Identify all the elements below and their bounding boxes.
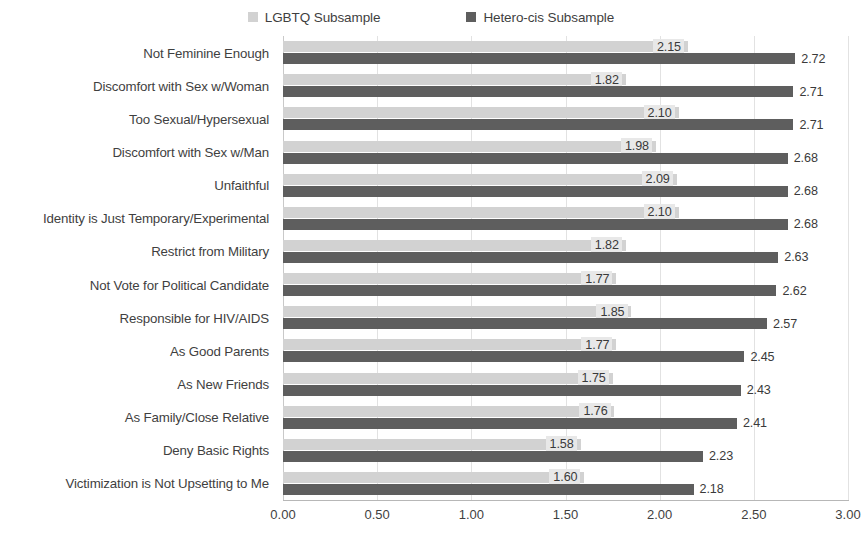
legend-item-label: Hetero-cis Subsample [483,10,614,25]
bar-value-hetero-cis-subsample: 2.68 [794,217,818,231]
category-label: Responsible for HIV/AIDS [120,310,269,325]
bar-value-hetero-cis-subsample: 2.18 [700,482,724,496]
bar-lgbtq-subsample[interactable] [283,174,677,185]
category-label: Discomfort with Sex w/Woman [93,78,269,93]
bar-hetero-cis-subsample[interactable] [283,119,793,130]
category-label: Victimization is Not Upsetting to Me [66,476,270,491]
bar-hetero-cis-subsample[interactable] [283,484,694,495]
bar-value-hetero-cis-subsample: 2.41 [743,416,767,430]
bar-value-hetero-cis-subsample: 2.72 [801,52,825,66]
x-tick-label: 1.50 [553,507,578,522]
category-axis-labels: Not Feminine EnoughDiscomfort with Sex w… [0,36,277,500]
bar-lgbtq-subsample[interactable] [283,41,688,52]
bar-value-hetero-cis-subsample: 2.23 [709,449,733,463]
bar-hetero-cis-subsample[interactable] [283,252,778,263]
bar-lgbtq-subsample[interactable] [283,141,656,152]
gridline [566,36,567,500]
category-label: As Good Parents [170,343,269,358]
legend-item[interactable]: LGBTQ Subsample [248,10,381,25]
bar-lgbtq-subsample[interactable] [283,240,626,251]
square-marker-icon [248,12,258,22]
gridline [283,36,284,500]
bar-value-hetero-cis-subsample: 2.71 [799,118,823,132]
category-label: Discomfort with Sex w/Man [112,145,269,160]
category-label: Restrict from Military [151,244,269,259]
category-label: As Family/Close Relative [125,410,269,425]
category-label: Not Vote for Political Candidate [90,277,269,292]
bar-value-hetero-cis-subsample: 2.68 [794,151,818,165]
category-label: As New Friends [177,377,269,392]
x-tick-label: 1.00 [459,507,484,522]
plot-area: 2.152.721.822.712.102.711.982.682.092.68… [283,36,848,500]
bar-chart: Not Feminine EnoughDiscomfort with Sex w… [0,36,862,554]
bar-hetero-cis-subsample[interactable] [283,53,795,64]
x-tick-label: 2.00 [647,507,672,522]
bar-value-hetero-cis-subsample: 2.68 [794,184,818,198]
chart-legend: LGBTQ SubsampleHetero-cis Subsample [0,6,862,28]
bar-lgbtq-subsample[interactable] [283,472,584,483]
legend-item-label: LGBTQ Subsample [265,10,381,25]
bar-hetero-cis-subsample[interactable] [283,186,788,197]
bar-lgbtq-subsample[interactable] [283,107,679,118]
bar-lgbtq-subsample[interactable] [283,306,631,317]
gridline [754,36,755,500]
bar-hetero-cis-subsample[interactable] [283,86,793,97]
category-label: Not Feminine Enough [143,45,269,60]
square-marker-icon [466,12,476,22]
legend-item[interactable]: Hetero-cis Subsample [466,10,614,25]
bar-hetero-cis-subsample[interactable] [283,318,767,329]
bar-lgbtq-subsample[interactable] [283,74,626,85]
x-axis-line [283,500,849,501]
category-label: Identity is Just Temporary/Experimental [43,211,269,226]
category-label: Too Sexual/Hypersexual [129,111,269,126]
x-tick-label: 0.50 [365,507,390,522]
bar-hetero-cis-subsample[interactable] [283,351,744,362]
bar-hetero-cis-subsample[interactable] [283,451,703,462]
bar-hetero-cis-subsample[interactable] [283,285,776,296]
bar-lgbtq-subsample[interactable] [283,406,614,417]
bar-lgbtq-subsample[interactable] [283,439,581,450]
bar-value-hetero-cis-subsample: 2.63 [784,250,808,264]
bar-lgbtq-subsample[interactable] [283,373,613,384]
bar-hetero-cis-subsample[interactable] [283,153,788,164]
bar-lgbtq-subsample[interactable] [283,339,616,350]
bar-value-hetero-cis-subsample: 2.57 [773,317,797,331]
bar-lgbtq-subsample[interactable] [283,207,679,218]
gridline [848,36,849,500]
bar-value-hetero-cis-subsample: 2.62 [782,284,806,298]
bar-value-hetero-cis-subsample: 2.45 [750,350,774,364]
bar-lgbtq-subsample[interactable] [283,273,616,284]
category-label: Deny Basic Rights [163,443,269,458]
gridline [471,36,472,500]
x-tick-label: 0.00 [270,507,295,522]
bar-hetero-cis-subsample[interactable] [283,385,741,396]
gridline [377,36,378,500]
bar-value-hetero-cis-subsample: 2.71 [799,85,823,99]
x-tick-label: 3.00 [835,507,860,522]
category-label: Unfaithful [214,178,269,193]
x-tick-label: 2.50 [741,507,766,522]
bar-hetero-cis-subsample[interactable] [283,219,788,230]
bar-hetero-cis-subsample[interactable] [283,418,737,429]
bar-value-hetero-cis-subsample: 2.43 [747,383,771,397]
x-axis-tick-labels: 0.000.501.001.502.002.503.00 [283,507,848,529]
